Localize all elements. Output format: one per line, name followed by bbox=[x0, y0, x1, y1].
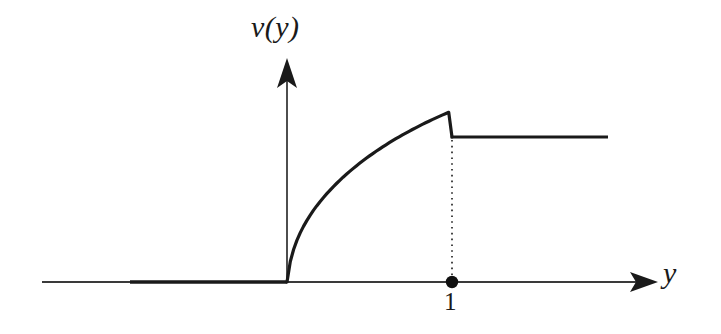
v-axis-label: v(y) bbox=[251, 12, 300, 42]
x-tick-label-1: 1 bbox=[444, 289, 457, 314]
y-axis-label: y bbox=[663, 258, 676, 288]
function-plot-figure: v(y) y 1 bbox=[0, 0, 721, 334]
plot-canvas bbox=[0, 0, 721, 334]
curve-increasing-branch bbox=[287, 112, 452, 282]
tick-marker-one bbox=[446, 276, 458, 288]
